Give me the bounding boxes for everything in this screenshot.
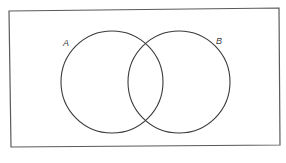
set-a-circle <box>61 31 163 133</box>
set-b-circle <box>128 31 230 133</box>
venn-diagram: A B <box>0 0 286 163</box>
set-a-label: A <box>62 38 69 48</box>
set-b-label: B <box>216 36 222 46</box>
universal-set-rectangle <box>9 8 280 147</box>
